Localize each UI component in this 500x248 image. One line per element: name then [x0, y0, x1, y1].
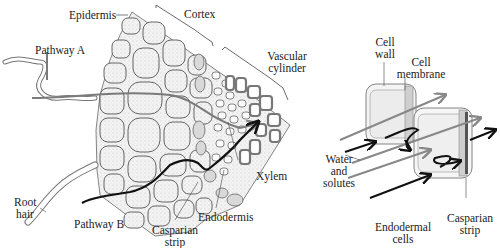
label-casparian-strip-right: Casparian strip [443, 212, 497, 236]
label-casparian-strip-left: Casparian strip [148, 224, 202, 248]
label-endodermal-cells: Endodermal cells [372, 221, 434, 245]
label-root-hair: Root hair [14, 196, 36, 220]
endodermal-cells-detail [340, 62, 495, 198]
label-pathway-b: Pathway B [74, 218, 124, 230]
casparian-strip-band [465, 112, 468, 174]
label-vascular-cylinder: Vascular cylinder [262, 50, 312, 74]
label-epidermis: Epidermis [69, 9, 116, 21]
label-cell-membrane: Cell membrane [394, 56, 448, 80]
label-xylem: Xylem [256, 170, 287, 182]
label-pathway-a: Pathway A [35, 44, 85, 56]
root-hair-top [5, 59, 95, 99]
label-cortex: Cortex [184, 8, 215, 20]
root-cross-section [5, 5, 290, 236]
label-water-and-solutes: Water and solutes [318, 153, 360, 189]
label-endodermis: Endodermis [198, 211, 254, 223]
